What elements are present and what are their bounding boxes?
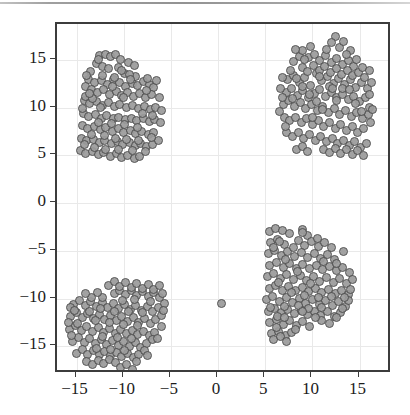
data-point xyxy=(127,334,136,343)
data-point xyxy=(291,325,300,334)
data-point xyxy=(303,147,312,156)
data-point xyxy=(280,313,289,322)
data-point xyxy=(281,122,290,131)
data-point xyxy=(300,55,309,64)
data-point xyxy=(132,357,141,366)
y-axis-tick xyxy=(50,297,55,298)
y-axis-tick-label: −15 xyxy=(0,334,46,354)
data-point xyxy=(153,334,162,343)
data-point xyxy=(313,234,322,243)
data-point xyxy=(142,86,151,95)
x-axis-tick xyxy=(122,372,123,377)
data-point xyxy=(359,151,368,160)
data-point xyxy=(345,85,354,94)
data-point xyxy=(155,93,164,102)
data-point xyxy=(105,318,114,327)
data-point xyxy=(305,322,314,331)
data-point xyxy=(157,322,166,331)
data-point xyxy=(73,319,82,328)
page-rule-divider xyxy=(0,2,410,4)
data-point xyxy=(365,66,374,75)
data-point xyxy=(130,295,139,304)
data-point xyxy=(96,304,105,313)
data-point xyxy=(94,118,103,127)
data-point xyxy=(276,84,285,93)
data-point xyxy=(275,107,284,116)
data-point xyxy=(306,279,315,288)
data-point xyxy=(346,285,355,294)
y-axis-tick-label: 15 xyxy=(0,48,46,68)
data-point xyxy=(338,304,347,313)
data-point xyxy=(291,45,300,54)
data-point xyxy=(327,243,336,252)
data-point xyxy=(289,243,298,252)
data-point xyxy=(328,84,337,93)
data-point xyxy=(141,147,150,156)
data-point xyxy=(280,302,289,311)
data-point xyxy=(146,297,155,306)
data-point xyxy=(272,323,281,332)
data-point xyxy=(362,139,371,148)
data-point xyxy=(110,307,119,316)
data-point xyxy=(308,113,317,122)
y-axis-tick-label: 10 xyxy=(0,96,46,116)
data-point xyxy=(366,118,375,127)
data-point xyxy=(348,275,357,284)
plot-area xyxy=(55,22,390,372)
y-axis-tick xyxy=(50,58,55,59)
data-point xyxy=(108,82,117,91)
y-axis-tick-label: 5 xyxy=(0,143,46,163)
data-point xyxy=(106,345,115,354)
data-point xyxy=(96,103,105,112)
data-point xyxy=(85,307,94,316)
x-axis-tick xyxy=(169,372,170,377)
data-point xyxy=(342,50,351,59)
data-point xyxy=(281,255,290,264)
data-point xyxy=(332,96,341,105)
data-point xyxy=(306,42,315,51)
data-point xyxy=(159,306,168,315)
data-point xyxy=(157,106,166,115)
data-point xyxy=(368,105,377,114)
data-point xyxy=(98,71,107,80)
data-point xyxy=(325,319,334,328)
data-point xyxy=(128,146,137,155)
data-point xyxy=(70,306,79,315)
data-point xyxy=(327,38,336,47)
y-axis-tick xyxy=(50,201,55,202)
x-axis-tick xyxy=(263,372,264,377)
data-point xyxy=(130,61,139,70)
data-point xyxy=(138,109,147,118)
x-axis-tick xyxy=(216,372,217,377)
x-axis-tick xyxy=(358,372,359,377)
data-point xyxy=(78,104,87,113)
y-axis-tick-label: −5 xyxy=(0,239,46,259)
x-axis-tick xyxy=(310,372,311,377)
data-point xyxy=(285,229,294,238)
data-point xyxy=(314,293,323,302)
x-axis-tick xyxy=(75,372,76,377)
data-point xyxy=(367,78,376,87)
data-point xyxy=(152,76,161,85)
scatter-plot-figure: −15−10−5051015−15−10−5051015 xyxy=(0,0,410,415)
y-axis-tick xyxy=(50,344,55,345)
data-point xyxy=(217,299,226,308)
data-point xyxy=(155,281,164,290)
data-point xyxy=(85,89,94,98)
y-axis-tick-label: 0 xyxy=(0,191,46,211)
data-point xyxy=(156,118,165,127)
data-point xyxy=(339,247,348,256)
data-points-layer xyxy=(57,24,388,370)
data-point xyxy=(147,133,156,142)
data-point xyxy=(111,134,120,143)
y-axis-tick xyxy=(50,106,55,107)
data-point xyxy=(327,292,336,301)
data-point xyxy=(365,90,374,99)
data-point xyxy=(92,344,101,353)
data-point xyxy=(91,316,100,325)
data-point xyxy=(113,333,122,342)
data-point xyxy=(158,289,167,298)
y-axis-tick xyxy=(50,153,55,154)
y-axis-tick xyxy=(50,249,55,250)
data-point xyxy=(94,55,103,64)
